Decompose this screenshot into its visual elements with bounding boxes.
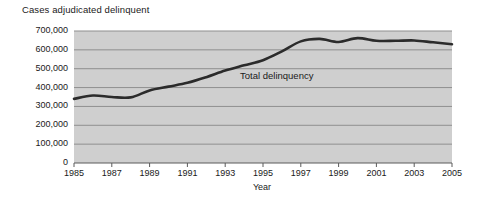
- x-tick-label: 1995: [243, 168, 283, 178]
- chart-figure: Cases adjudicated delinquent 0100,000200…: [0, 0, 486, 210]
- series-annotation-total-delinquency: Total delinquency: [240, 70, 313, 81]
- y-tick-label: 200,000: [12, 119, 68, 129]
- y-tick-label: 600,000: [12, 44, 68, 54]
- y-tick-label: 300,000: [12, 100, 68, 110]
- x-tick-label: 2001: [356, 168, 396, 178]
- x-tick-label: 1987: [92, 168, 132, 178]
- y-tick-label: 100,000: [12, 138, 68, 148]
- x-tick-label: 1993: [205, 168, 245, 178]
- y-tick-label: 400,000: [12, 82, 68, 92]
- y-tick-label: 0: [12, 157, 68, 167]
- x-axis-ticks: [74, 163, 452, 167]
- x-tick-label: 1985: [54, 168, 94, 178]
- x-tick-label: 2005: [432, 168, 472, 178]
- x-axis-title: Year: [212, 182, 312, 192]
- y-tick-label: 500,000: [12, 63, 68, 73]
- x-tick-label: 1997: [281, 168, 321, 178]
- x-tick-label: 1991: [167, 168, 207, 178]
- x-tick-label: 1999: [319, 168, 359, 178]
- x-tick-label: 2003: [394, 168, 434, 178]
- plot-area: [0, 0, 486, 210]
- x-tick-label: 1989: [130, 168, 170, 178]
- y-tick-label: 700,000: [12, 25, 68, 35]
